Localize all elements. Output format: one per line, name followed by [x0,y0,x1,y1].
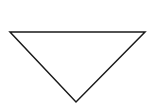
diagram-canvas [0,0,158,108]
